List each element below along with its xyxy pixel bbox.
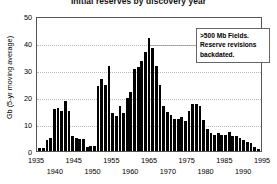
chart-root: Initial reserves by discovery year Gb (5… xyxy=(0,0,277,184)
bar xyxy=(111,113,114,151)
bar xyxy=(213,135,216,151)
bar xyxy=(126,98,129,151)
bar xyxy=(148,38,151,151)
y-tick-label: 40 xyxy=(8,40,32,49)
bar xyxy=(180,117,183,151)
y-tick-label: 20 xyxy=(8,94,32,103)
x-tick-label: 1990 xyxy=(235,167,251,176)
x-tick-label: 1965 xyxy=(141,156,157,165)
bar xyxy=(173,119,176,151)
bar xyxy=(166,112,169,151)
bar xyxy=(38,148,41,151)
bar xyxy=(155,66,158,151)
bar xyxy=(119,106,122,151)
x-tick-label: 1970 xyxy=(160,167,176,176)
bar xyxy=(82,139,85,151)
x-tick-label: 1935 xyxy=(28,156,44,165)
bar xyxy=(257,149,260,151)
annotation-box: >500 Mb Fields. Reserve revisions backda… xyxy=(196,28,270,63)
bar xyxy=(60,111,63,152)
chart-title: Initial reserves by discovery year xyxy=(0,0,277,6)
bar xyxy=(64,101,67,151)
bar xyxy=(159,85,162,151)
bar xyxy=(78,139,81,151)
y-tick-label: 50 xyxy=(8,13,32,22)
bar xyxy=(235,136,238,151)
bar xyxy=(253,147,256,151)
x-tick-label: 1995 xyxy=(254,156,270,165)
bar xyxy=(97,86,100,151)
bar xyxy=(89,146,92,151)
bar xyxy=(231,136,234,151)
x-tick-label: 1950 xyxy=(84,167,100,176)
bar xyxy=(137,67,140,151)
x-tick-label: 1975 xyxy=(179,156,195,165)
bar xyxy=(242,140,245,151)
x-tick-label: 1955 xyxy=(103,156,119,165)
y-tick-label: 10 xyxy=(8,121,32,130)
bar xyxy=(100,79,103,151)
bar xyxy=(177,119,180,151)
y-tick-label: 30 xyxy=(8,67,32,76)
annotation-line-3: backdated. xyxy=(200,50,266,59)
bar xyxy=(217,133,220,151)
bar xyxy=(42,148,45,151)
bar xyxy=(86,147,89,151)
bar xyxy=(224,135,227,151)
bar xyxy=(246,142,249,151)
bar xyxy=(144,52,147,151)
bar xyxy=(129,92,132,151)
bar xyxy=(68,111,71,152)
bar xyxy=(220,135,223,151)
bar xyxy=(93,146,96,151)
x-tick-label: 1985 xyxy=(216,156,232,165)
x-tick-label: 1940 xyxy=(47,167,63,176)
bar xyxy=(184,121,187,151)
bar xyxy=(188,111,191,152)
bar xyxy=(71,136,74,151)
bar xyxy=(195,104,198,151)
bar xyxy=(202,120,205,151)
bar xyxy=(57,108,60,151)
bar xyxy=(49,138,52,152)
bar xyxy=(206,129,209,151)
bar xyxy=(162,106,165,151)
x-tick-label: 1945 xyxy=(66,156,82,165)
bar xyxy=(122,113,125,151)
bar xyxy=(108,66,111,151)
bar xyxy=(151,48,154,151)
bar xyxy=(133,69,136,151)
x-tick-label: 1980 xyxy=(197,167,213,176)
annotation-leader-line xyxy=(150,45,196,46)
x-tick-label: 1960 xyxy=(122,167,138,176)
bar xyxy=(228,132,231,151)
bar xyxy=(239,138,242,152)
bar xyxy=(199,106,202,151)
bar xyxy=(53,109,56,151)
bar xyxy=(115,116,118,151)
annotation-line-1: >500 Mb Fields. xyxy=(200,31,266,40)
bar xyxy=(46,140,49,151)
bar xyxy=(210,133,213,151)
bar xyxy=(104,85,107,151)
bar xyxy=(140,61,143,151)
bar xyxy=(250,143,253,151)
bar xyxy=(170,115,173,151)
bar xyxy=(75,138,78,152)
y-axis-label-wrap: Gb (5-yr moving average) xyxy=(0,17,14,152)
annotation-line-2: Reserve revisions xyxy=(200,40,266,49)
bar xyxy=(191,104,194,151)
